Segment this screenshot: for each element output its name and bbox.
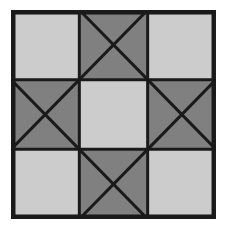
cell-fill (11, 149, 79, 219)
quilt-cell-top-center (79, 10, 147, 80)
quilt-cell-bottom-left (11, 149, 79, 219)
cell-fill (11, 10, 79, 80)
quilt-block (11, 10, 216, 219)
quilt-cell-middle-right (148, 80, 216, 150)
cell-fill (148, 10, 216, 80)
quilt-cell-center (79, 80, 147, 150)
quilt-cell-top-left (11, 10, 79, 80)
cell-fill (148, 149, 216, 219)
quilt-cell-bottom-center (79, 149, 147, 219)
quilt-cell-top-right (148, 10, 216, 80)
image-canvas (0, 0, 225, 235)
cell-fill (79, 80, 147, 150)
quilt-block-svg (11, 10, 216, 219)
quilt-cell-middle-left (11, 80, 79, 150)
cell-layer (11, 10, 216, 219)
quilt-cell-bottom-right (148, 149, 216, 219)
